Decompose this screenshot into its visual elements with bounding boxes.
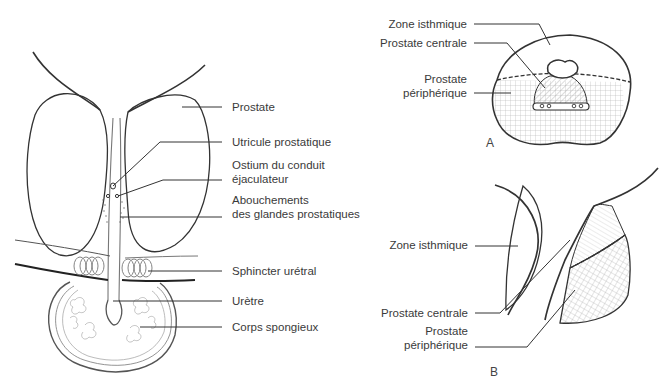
label-abouchements-line2: des glandes prostatiques: [232, 207, 360, 221]
anatomy-illustration: [0, 0, 663, 390]
label-a-prostate-centrale: Prostate centrale: [380, 36, 467, 50]
label-utricule-prostatique: Utricule prostatique: [232, 135, 331, 149]
figure-a: [474, 24, 631, 145]
label-sphincter-uretral: Sphincter urétral: [232, 264, 316, 278]
figure-b-tag: B: [490, 365, 498, 379]
label-a-zone-isthmique: Zone isthmique: [388, 17, 467, 31]
label-a-peripherique-line2: périphérique: [403, 86, 467, 100]
label-b-peripherique-line2: périphérique: [404, 338, 468, 352]
figure-b: [475, 168, 658, 347]
label-corps-spongieux: Corps spongieux: [232, 320, 318, 334]
label-b-peripherique-line1: Prostate: [425, 324, 468, 338]
label-abouchements-line1: Abouchements: [232, 193, 309, 207]
label-b-prostate-centrale: Prostate centrale: [381, 306, 468, 320]
label-b-zone-isthmique: Zone isthmique: [389, 238, 468, 252]
label-ostium-line2: éjaculateur: [232, 172, 288, 186]
label-ostium-line1: Ostium du conduit: [232, 158, 325, 172]
main-figure: [15, 52, 222, 372]
label-prostate: Prostate: [232, 100, 275, 114]
label-uretre: Urètre: [232, 294, 264, 308]
figure-a-tag: A: [486, 136, 494, 150]
label-a-peripherique-line1: Prostate: [424, 72, 467, 86]
